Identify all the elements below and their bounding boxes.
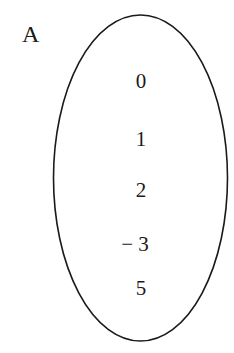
set-element: 1	[100, 127, 182, 151]
set-element: − 3	[94, 232, 176, 256]
set-element: 5	[100, 276, 182, 300]
set-element: 0	[100, 69, 182, 93]
set-element: 2	[100, 178, 182, 202]
set-ellipse	[0, 0, 234, 353]
